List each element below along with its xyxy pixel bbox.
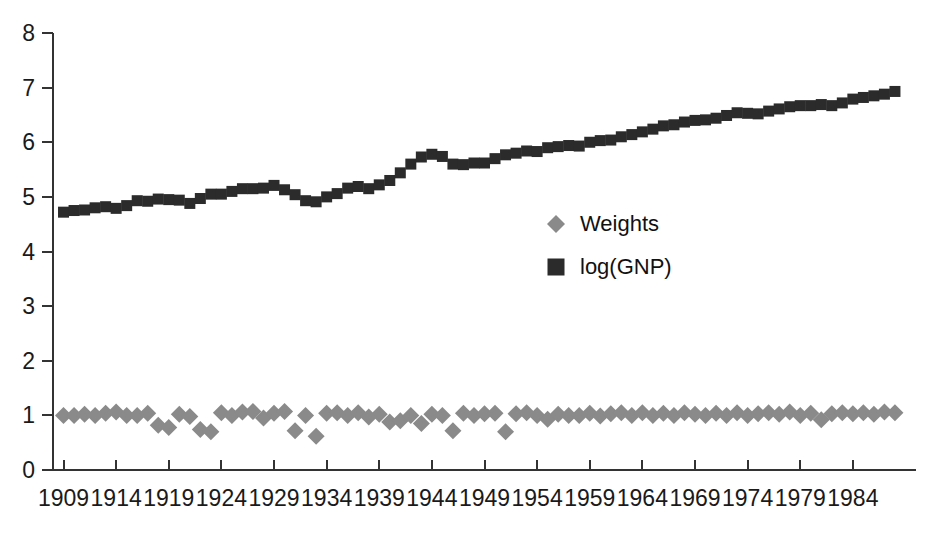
- data-point-log-gnp: [395, 167, 406, 178]
- data-point-log-gnp: [784, 101, 795, 112]
- data-point-log-gnp: [500, 149, 511, 160]
- x-tick-label: 1969: [669, 485, 720, 511]
- y-tick-label: 1: [22, 402, 35, 428]
- data-point-log-gnp: [879, 89, 890, 100]
- y-axis: 012345678: [22, 20, 53, 483]
- data-point-log-gnp: [468, 158, 479, 169]
- data-point-log-gnp: [79, 204, 90, 215]
- data-point-log-gnp: [321, 191, 332, 202]
- data-point-log-gnp: [437, 151, 448, 162]
- data-point-log-gnp: [774, 103, 785, 114]
- y-tick-label: 4: [22, 239, 35, 265]
- data-point-log-gnp: [332, 188, 343, 199]
- data-point-log-gnp: [426, 149, 437, 160]
- data-point-log-gnp: [195, 193, 206, 204]
- data-point-weights: [308, 428, 325, 445]
- data-point-weights: [297, 407, 314, 424]
- x-tick-label: 1909: [38, 485, 89, 511]
- data-point-log-gnp: [174, 195, 185, 206]
- data-point-log-gnp: [742, 108, 753, 119]
- data-point-log-gnp: [647, 124, 658, 135]
- data-point-log-gnp: [605, 135, 616, 146]
- y-tick-label: 8: [22, 20, 35, 46]
- data-point-log-gnp: [868, 90, 879, 101]
- data-point-log-gnp: [889, 86, 900, 97]
- data-point-log-gnp: [511, 148, 522, 159]
- data-point-log-gnp: [626, 129, 637, 140]
- data-point-log-gnp: [342, 183, 353, 194]
- data-point-log-gnp: [563, 140, 574, 151]
- data-point-log-gnp: [521, 145, 532, 156]
- data-point-log-gnp: [595, 135, 606, 146]
- data-point-log-gnp: [574, 141, 585, 152]
- data-point-weights: [497, 423, 514, 440]
- data-point-log-gnp: [658, 120, 669, 131]
- chart-container: 012345678 190919141919192419291934193919…: [0, 0, 939, 538]
- y-tick-label: 0: [22, 457, 35, 483]
- data-point-log-gnp: [584, 137, 595, 148]
- data-point-log-gnp: [490, 153, 501, 164]
- data-point-log-gnp: [795, 100, 806, 111]
- data-point-log-gnp: [616, 131, 627, 142]
- legend-label: Weights: [580, 211, 659, 236]
- data-point-log-gnp: [90, 202, 101, 213]
- x-axis: 1909191419191924192919341939194419491954…: [38, 460, 916, 511]
- data-point-log-gnp: [153, 194, 164, 205]
- data-point-log-gnp: [226, 186, 237, 197]
- data-point-log-gnp: [816, 99, 827, 110]
- data-point-log-gnp: [532, 146, 543, 157]
- data-point-log-gnp: [58, 207, 69, 218]
- data-point-log-gnp: [184, 198, 195, 209]
- data-point-log-gnp: [637, 126, 648, 137]
- data-point-log-gnp: [121, 200, 132, 211]
- data-point-log-gnp: [700, 114, 711, 125]
- data-point-log-gnp: [69, 205, 80, 216]
- data-point-log-gnp: [237, 183, 248, 194]
- x-tick-label: 1939: [354, 485, 405, 511]
- y-tick-label: 7: [22, 75, 35, 101]
- x-tick-label: 1984: [827, 485, 878, 511]
- data-point-weights: [444, 422, 461, 439]
- x-tick-label: 1954: [512, 485, 563, 511]
- x-tick-label: 1964: [617, 485, 668, 511]
- legend-marker-weights: [547, 215, 565, 233]
- data-point-log-gnp: [416, 152, 427, 163]
- data-point-log-gnp: [711, 113, 722, 124]
- data-point-log-gnp: [679, 117, 690, 128]
- data-point-weights: [287, 422, 304, 439]
- data-point-log-gnp: [374, 179, 385, 190]
- x-tick-label: 1914: [91, 485, 142, 511]
- x-tick-label: 1949: [459, 485, 510, 511]
- data-point-log-gnp: [269, 180, 280, 191]
- data-point-log-gnp: [763, 106, 774, 117]
- data-point-log-gnp: [311, 196, 322, 207]
- data-point-log-gnp: [447, 159, 458, 170]
- data-point-log-gnp: [753, 108, 764, 119]
- x-tick-label: 1924: [196, 485, 247, 511]
- data-point-log-gnp: [858, 92, 869, 103]
- data-point-log-gnp: [100, 201, 111, 212]
- legend-label: log(GNP): [580, 254, 672, 279]
- data-point-log-gnp: [721, 110, 732, 121]
- data-point-log-gnp: [542, 142, 553, 153]
- x-tick-label: 1974: [722, 485, 773, 511]
- x-tick-label: 1929: [248, 485, 299, 511]
- data-point-log-gnp: [300, 195, 311, 206]
- data-point-log-gnp: [216, 189, 227, 200]
- data-point-log-gnp: [805, 100, 816, 111]
- data-point-log-gnp: [163, 194, 174, 205]
- data-point-log-gnp: [363, 183, 374, 194]
- x-tick-label: 1959: [564, 485, 615, 511]
- x-tick-label: 1944: [406, 485, 457, 511]
- series-weights: [55, 403, 903, 445]
- x-tick-label: 1919: [143, 485, 194, 511]
- data-point-log-gnp: [353, 181, 364, 192]
- data-point-log-gnp: [132, 195, 143, 206]
- data-point-log-gnp: [290, 189, 301, 200]
- series-log-gnp: [58, 86, 900, 218]
- data-point-log-gnp: [142, 196, 153, 207]
- data-point-log-gnp: [479, 158, 490, 169]
- x-tick-label: 1979: [775, 485, 826, 511]
- legend-marker-log-gnp: [548, 259, 565, 276]
- data-point-weights: [487, 405, 504, 422]
